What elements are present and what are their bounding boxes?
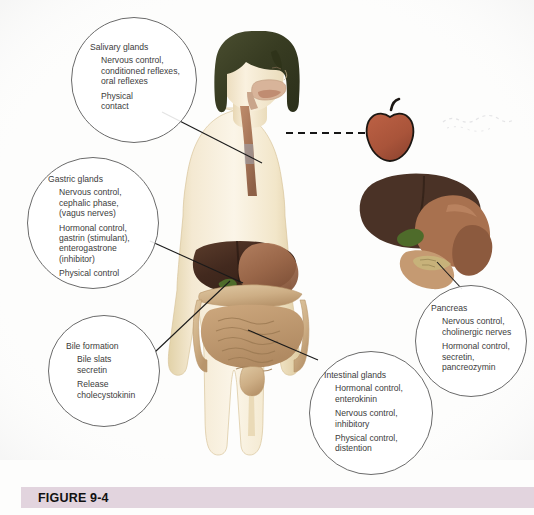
callout-intestinal-group-3: Physical control, distention bbox=[324, 433, 432, 454]
callout-gastric-group-3: Physical control bbox=[48, 268, 158, 278]
callout-line: Nervous control, bbox=[59, 187, 158, 197]
callout-intestinal-group-1: Hormonal control, enterokinin bbox=[324, 383, 432, 404]
callout-line: Hormonal control, bbox=[442, 341, 526, 351]
callout-salivary-glands: Salivary glands Nervous control, conditi… bbox=[71, 17, 197, 143]
callout-line: enterokinin bbox=[335, 394, 432, 404]
callout-salivary-title: Salivary glands bbox=[90, 42, 196, 52]
callout-line: oral reflexes bbox=[101, 76, 196, 86]
callout-intestinal-group-2: Nervous control, inhibitory bbox=[324, 408, 432, 429]
callout-line: enterogastrone bbox=[59, 243, 158, 253]
figure-number-label: FIGURE 9-4 bbox=[38, 491, 109, 505]
callout-pancreas-group-1: Nervous control, cholinergic nerves bbox=[431, 316, 526, 337]
callout-intestinal-glands: Intestinal glands Hormonal control, ente… bbox=[309, 351, 433, 475]
callout-line: secretin bbox=[77, 365, 159, 375]
callout-bile-group-2: Release cholecystokinin bbox=[66, 379, 159, 400]
callout-line: Physical control bbox=[59, 268, 158, 278]
callout-line: Physical bbox=[101, 91, 196, 101]
callout-line: Hormonal control, bbox=[59, 223, 158, 233]
callout-line: gastrin (stimulant), bbox=[59, 233, 158, 243]
callout-line: Release bbox=[77, 379, 159, 389]
callout-line: Nervous control, bbox=[442, 316, 526, 326]
callout-salivary-group-2: Physical contact bbox=[90, 91, 196, 112]
figure-9-4: Salivary glands Nervous control, conditi… bbox=[0, 0, 534, 515]
callout-pancreas-title: Pancreas bbox=[431, 303, 526, 313]
callout-line: Physical control, bbox=[335, 433, 432, 443]
callout-line: conditioned reflexes, bbox=[101, 66, 196, 76]
callout-line: distention bbox=[335, 443, 432, 453]
callout-line: contact bbox=[101, 101, 196, 111]
callout-line: Hormonal control, bbox=[335, 383, 432, 393]
callout-line: pancreozymin bbox=[442, 362, 526, 372]
callout-line: cephalic phase, bbox=[59, 198, 158, 208]
callout-salivary-group-1: Nervous control, conditioned reflexes, o… bbox=[90, 55, 196, 86]
callout-gastric-group-1: Nervous control, cephalic phase, (vagus … bbox=[48, 187, 158, 218]
callout-line: Bile slats bbox=[77, 354, 159, 364]
callout-bile-formation: Bile formation Bile slats secretin Relea… bbox=[48, 315, 160, 427]
callout-line: (vagus nerves) bbox=[59, 208, 158, 218]
callout-line: secretin, bbox=[442, 352, 526, 362]
callout-line: Nervous control, bbox=[335, 408, 432, 418]
callout-line: Nervous control, bbox=[101, 55, 196, 65]
scan-artifact-smudge bbox=[441, 112, 515, 138]
callout-line: cholecystokinin bbox=[77, 390, 159, 400]
callout-bile-group-1: Bile slats secretin bbox=[66, 354, 159, 375]
figure-caption-bar: FIGURE 9-4 bbox=[21, 487, 534, 508]
callout-gastric-group-2: Hormonal control, gastrin (stimulant), e… bbox=[48, 223, 158, 265]
callout-line: cholinergic nerves bbox=[442, 327, 526, 337]
callout-line: (inhibitor) bbox=[59, 254, 158, 264]
callout-gastric-glands: Gastric glands Nervous control, cephalic… bbox=[27, 157, 159, 289]
callout-gastric-title: Gastric glands bbox=[48, 174, 158, 184]
callout-pancreas: Pancreas Nervous control, cholinergic ne… bbox=[415, 285, 527, 397]
callout-pancreas-group-2: Hormonal control, secretin, pancreozymin bbox=[431, 341, 526, 372]
callout-bile-title: Bile formation bbox=[66, 341, 159, 351]
callout-line: inhibitory bbox=[335, 419, 432, 429]
